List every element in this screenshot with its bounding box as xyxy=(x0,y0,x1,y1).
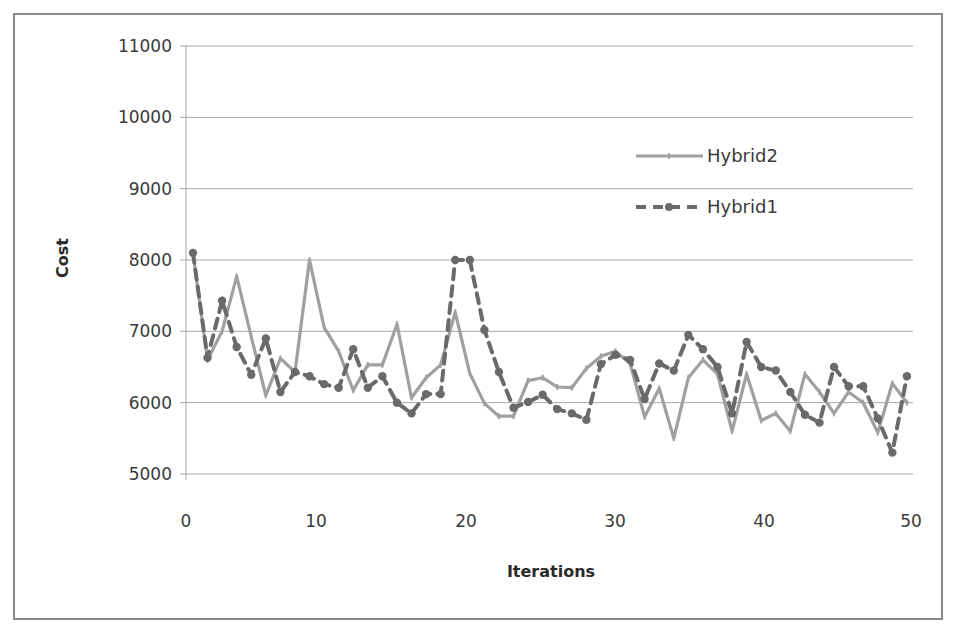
data-point-marker xyxy=(699,345,707,353)
legend-label: Hybrid1 xyxy=(707,196,778,217)
data-point-marker xyxy=(451,256,459,264)
data-point-marker xyxy=(888,448,896,456)
data-point-marker xyxy=(480,326,488,334)
data-point-marker xyxy=(640,395,648,403)
x-tick-label: 0 xyxy=(181,511,192,531)
data-point-marker xyxy=(291,368,299,376)
x-tick-label: 40 xyxy=(753,511,775,531)
data-point-marker xyxy=(844,382,852,390)
series-lines xyxy=(189,249,911,457)
data-point-marker xyxy=(786,388,794,396)
data-point-marker xyxy=(582,416,590,424)
legend-label: Hybrid2 xyxy=(707,145,778,166)
data-point-marker xyxy=(334,383,342,391)
line-chart: 500060007000800090001000011000 010203040… xyxy=(0,0,958,633)
data-point-marker xyxy=(364,383,372,391)
legend: Hybrid2Hybrid1 xyxy=(636,145,778,217)
y-tick-label: 7000 xyxy=(129,321,172,341)
data-point-marker xyxy=(203,354,211,362)
x-tick-label: 50 xyxy=(900,511,922,531)
y-axis-title: Cost xyxy=(53,238,72,278)
data-point-marker xyxy=(859,382,867,390)
data-point-marker xyxy=(320,380,328,388)
data-point-marker xyxy=(524,398,532,406)
data-point-marker xyxy=(742,338,750,346)
data-point-marker xyxy=(611,351,619,359)
data-point-marker xyxy=(553,405,561,413)
data-point-marker xyxy=(815,418,823,426)
y-tick-label: 8000 xyxy=(129,250,172,270)
data-point-marker xyxy=(247,371,255,379)
data-point-marker xyxy=(393,398,401,406)
data-point-marker xyxy=(276,388,284,396)
data-point-marker xyxy=(772,366,780,374)
data-point-marker xyxy=(684,331,692,339)
data-point-marker xyxy=(538,391,546,399)
data-point-marker xyxy=(378,372,386,380)
series-hybrid2 xyxy=(193,250,907,441)
data-point-marker xyxy=(466,256,474,264)
x-axis-title: Iterations xyxy=(507,562,595,581)
x-tick-label: 30 xyxy=(604,511,626,531)
data-point-marker xyxy=(262,334,270,342)
data-point-marker xyxy=(801,411,809,419)
data-point-marker xyxy=(728,409,736,417)
data-point-marker xyxy=(670,366,678,374)
data-point-marker xyxy=(218,296,226,304)
data-point-marker xyxy=(626,356,634,364)
data-point-marker xyxy=(874,414,882,422)
data-point-marker xyxy=(830,363,838,371)
data-point-marker xyxy=(305,372,313,380)
data-point-marker xyxy=(509,403,517,411)
data-point-marker xyxy=(597,360,605,368)
data-point-marker xyxy=(407,409,415,417)
data-point-marker xyxy=(349,345,357,353)
y-tick-label: 6000 xyxy=(129,393,172,413)
x-tick-label: 10 xyxy=(305,511,327,531)
data-point-marker xyxy=(713,363,721,371)
y-tick-label: 5000 xyxy=(129,464,172,484)
y-axis-ticks: 500060007000800090001000011000 xyxy=(118,36,172,484)
series-line-hybrid1 xyxy=(193,253,907,453)
x-tick-label: 20 xyxy=(455,511,477,531)
data-point-marker xyxy=(495,368,503,376)
y-tick-label: 11000 xyxy=(118,36,172,56)
data-point-marker xyxy=(189,249,197,257)
y-tick-label: 9000 xyxy=(129,179,172,199)
data-point-marker xyxy=(903,372,911,380)
x-axis-ticks: 01020304050 xyxy=(181,511,922,531)
legend-item-hybrid1: Hybrid1 xyxy=(636,196,778,217)
data-point-marker xyxy=(757,363,765,371)
data-point-marker xyxy=(568,409,576,417)
y-tick-label: 10000 xyxy=(118,107,172,127)
data-point-marker xyxy=(422,390,430,398)
data-point-marker xyxy=(232,343,240,351)
legend-item-hybrid2: Hybrid2 xyxy=(636,145,778,166)
data-point-marker xyxy=(655,359,663,367)
data-point-marker xyxy=(436,390,444,398)
legend-marker xyxy=(665,203,673,211)
